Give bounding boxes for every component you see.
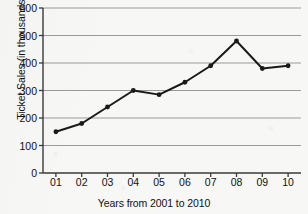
y-tick-label: 100 — [11, 140, 37, 152]
y-tick-label: 300 — [11, 85, 37, 97]
x-tick-label: 04 — [122, 176, 144, 188]
y-tick-label: 400 — [11, 57, 37, 69]
y-tick-label: 600 — [11, 2, 37, 14]
x-tick-label: 03 — [97, 176, 119, 188]
data-point-marker — [260, 66, 265, 71]
x-tick-label: 06 — [174, 176, 196, 188]
x-axis-title: Years from 2001 to 2010 — [0, 197, 308, 209]
x-tick-label: 08 — [226, 176, 248, 188]
data-point-marker — [131, 88, 136, 93]
x-tick-label: 10 — [277, 176, 299, 188]
data-point-marker — [157, 92, 162, 97]
x-tick-label: 07 — [200, 176, 222, 188]
y-axis-tick-labels: 0100200300400500600 — [11, 0, 37, 214]
chart-figure: Ticket Sales (in thousands) Years from 2… — [0, 0, 308, 214]
data-point-marker — [79, 121, 84, 126]
y-tick-label: 200 — [11, 112, 37, 124]
x-tick-label: 05 — [148, 176, 170, 188]
x-tick-label: 02 — [71, 176, 93, 188]
data-point-marker — [183, 80, 188, 85]
data-point-marker — [208, 63, 213, 68]
y-tick-label: 0 — [11, 167, 37, 179]
data-point-marker — [286, 63, 291, 68]
x-tick-label: 01 — [45, 176, 67, 188]
data-point-marker — [105, 105, 110, 110]
data-point-marker — [54, 129, 59, 134]
x-tick-label: 09 — [251, 176, 273, 188]
data-point-marker — [234, 39, 239, 44]
y-tick-label: 500 — [11, 30, 37, 42]
plot-area — [43, 8, 301, 173]
line-chart-svg — [43, 8, 301, 173]
